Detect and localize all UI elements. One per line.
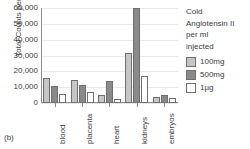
bar-group — [98, 8, 121, 103]
y-tick-label: 50,000 — [14, 20, 38, 28]
legend: ColdAngiotensin IIper mlinjected 100mg50… — [186, 6, 250, 94]
legend-item[interactable]: 500mg — [186, 68, 250, 81]
legend-swatch — [186, 57, 196, 67]
bar-group — [43, 8, 66, 103]
legend-swatch — [186, 70, 196, 80]
legend-item[interactable]: 100mg — [186, 55, 250, 68]
bar — [98, 95, 105, 103]
bar — [71, 80, 78, 103]
y-tick-label: 30,000 — [14, 52, 38, 60]
legend-title-line: injected — [186, 41, 250, 53]
legend-swatch — [186, 83, 196, 93]
bar — [161, 95, 168, 103]
legend-item-label: 1µg — [200, 83, 214, 92]
x-tick-label: placenta — [85, 114, 94, 144]
bar — [51, 86, 58, 103]
legend-items: 100mg500mg1µg — [186, 55, 250, 94]
legend-title: ColdAngiotensin IIper mlinjected — [186, 6, 250, 52]
legend-item-label: 100mg — [200, 57, 224, 66]
x-tick-label: embryos — [167, 113, 176, 144]
y-tick-label: 0 — [34, 99, 38, 107]
bar-group — [71, 8, 94, 103]
x-tick-label: blood — [58, 124, 67, 144]
bar — [59, 94, 66, 103]
x-tick-label: heart — [112, 126, 121, 144]
x-tick-label: kidneys — [140, 117, 149, 144]
plot-area: 010,00020,00030,00040,00050,00060,000 — [41, 8, 178, 103]
y-tick-label: 10,000 — [14, 83, 38, 91]
panel-label: (b) — [4, 133, 14, 142]
legend-item[interactable]: 1µg — [186, 81, 250, 94]
figure-panel: Total Counts per min 010,00020,00030,000… — [0, 0, 250, 149]
bar — [125, 53, 132, 103]
bar — [79, 85, 86, 103]
x-axis-labels: bloodplacentaheartkidneysembryos — [41, 106, 178, 148]
bar — [133, 8, 140, 103]
legend-title-line: Angiotensin II — [186, 18, 250, 30]
bar — [43, 78, 50, 103]
bar — [87, 92, 94, 103]
legend-title-line: Cold — [186, 6, 250, 18]
bar — [141, 76, 148, 103]
bar-group — [125, 8, 148, 103]
y-tick-label: 20,000 — [14, 67, 38, 75]
bar-group — [153, 8, 176, 103]
legend-item-label: 500mg — [200, 70, 224, 79]
bar-groups — [41, 8, 178, 103]
legend-title-line: per ml — [186, 29, 250, 41]
bar — [106, 81, 113, 103]
y-tick-label: 40,000 — [14, 36, 38, 44]
y-tick-label: 60,000 — [14, 4, 38, 12]
